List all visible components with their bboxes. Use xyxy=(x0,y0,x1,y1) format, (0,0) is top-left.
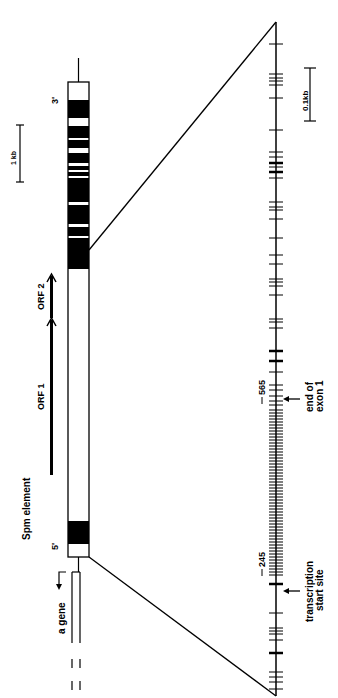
scale-bar-1kb xyxy=(16,125,24,182)
element-black-segment xyxy=(68,178,89,202)
element-black-segment xyxy=(68,166,89,170)
element-black-segment xyxy=(68,521,89,544)
orf2-arrow xyxy=(47,274,56,318)
orf2-label: ORF 2 xyxy=(36,283,46,310)
orf1-label: ORF 1 xyxy=(36,383,46,410)
element-black-segment xyxy=(68,100,89,118)
position-245-label: 245 xyxy=(257,552,267,567)
exon-end-arrow-icon xyxy=(283,396,300,402)
element-black-segment xyxy=(68,140,89,148)
orf1-arrow xyxy=(47,318,56,475)
exon-end-label-2: exon 1 xyxy=(314,380,325,412)
spm-element-diagram: Spm element 5' 3' a gene ORF 1 ORF 2 1 k… xyxy=(0,0,338,698)
spm-element-box xyxy=(68,82,89,557)
gene-label: a gene xyxy=(56,602,67,634)
element-black-segment xyxy=(68,227,89,236)
spm-element-label: Spm element xyxy=(21,477,32,540)
element-black-segment xyxy=(68,153,89,163)
gene-lines xyxy=(72,572,80,690)
five-prime-label: 5' xyxy=(50,543,60,550)
position-565-label: 565 xyxy=(257,380,267,395)
tss-label-2: start site xyxy=(314,569,325,611)
element-black-segment xyxy=(68,126,89,138)
element-black-segment xyxy=(68,238,89,269)
tss-arrow-icon xyxy=(283,588,300,594)
scale-0.1kb-label: 0.1kb xyxy=(301,90,310,111)
expansion-line-bottom xyxy=(89,557,276,696)
gene-direction-arrow-icon xyxy=(56,572,66,590)
three-prime-label: 3' xyxy=(50,97,60,104)
scale-1kb-label: 1 kb xyxy=(10,151,17,165)
expansion-line-top xyxy=(89,22,276,250)
element-black-segment xyxy=(68,205,89,224)
element-black-segment xyxy=(68,172,89,176)
